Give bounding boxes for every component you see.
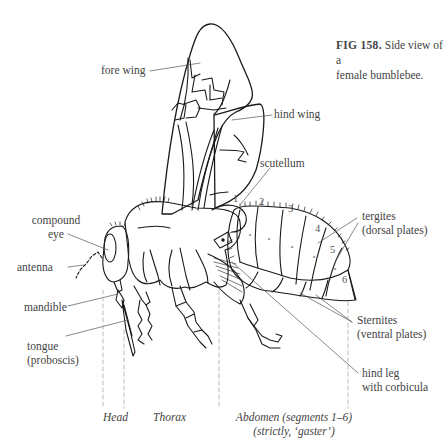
svg-text:a: a xyxy=(268,236,271,241)
label-fore-wing: fore wing xyxy=(101,63,145,77)
segment-number-2: 2 xyxy=(259,196,264,207)
svg-text:a: a xyxy=(334,266,337,271)
segment-number-4: 4 xyxy=(315,223,320,234)
segment-number-1: 1 xyxy=(233,193,238,204)
label-sternites: Sternites (ventral plates) xyxy=(357,313,426,341)
figure-caption: FIG 158. Side view of a female bumblebee… xyxy=(336,38,445,83)
region-label-thorax: Thorax xyxy=(153,410,186,424)
label-hind-leg-line1: hind leg xyxy=(362,366,428,380)
sternites-leader-2 xyxy=(316,295,352,322)
label-scutellum: scutellum xyxy=(260,156,305,170)
bee-anatomy-figure: a a a a a xyxy=(0,0,445,445)
label-mandible: mandible xyxy=(24,300,67,314)
caption-text-2: female bumblebee. xyxy=(336,68,445,83)
label-antenna: antenna xyxy=(17,260,53,274)
mandible-leader xyxy=(68,294,118,306)
head-shape xyxy=(103,226,129,292)
tongue-leader xyxy=(66,320,128,336)
label-compound-eye: compound eye xyxy=(30,213,82,241)
region-label-head: Head xyxy=(103,410,128,424)
label-tongue: tongue (proboscis) xyxy=(27,339,79,367)
middle-leg-shape xyxy=(172,286,212,348)
svg-text:a: a xyxy=(291,244,294,249)
label-tongue-line2: (proboscis) xyxy=(27,353,79,367)
front-leg-shape xyxy=(134,286,152,344)
region-label-abdomen-line2: (strictly, ‘gaster’) xyxy=(224,424,364,438)
fore-wing-leader xyxy=(150,63,200,71)
label-tergites-line1: tergites xyxy=(362,209,427,223)
region-label-abdomen: Abdomen (segments 1–6) (strictly, ‘gaste… xyxy=(224,410,364,438)
svg-text:a: a xyxy=(313,254,316,259)
label-hind-wing: hind wing xyxy=(274,107,320,121)
antenna-leader xyxy=(68,265,84,267)
label-hind-leg-line2: with corbicula xyxy=(362,380,428,394)
label-compound-eye-line2: eye xyxy=(30,227,82,241)
segment-number-6: 6 xyxy=(342,274,347,285)
label-sternites-line2: (ventral plates) xyxy=(357,327,426,341)
antenna-shape xyxy=(76,252,102,278)
tergites-leader-1 xyxy=(318,218,357,243)
hind-wing-shape xyxy=(192,104,264,210)
compound-eye-shape xyxy=(104,234,116,262)
segment-number-3: 3 xyxy=(288,203,293,214)
region-label-abdomen-line1: Abdomen (segments 1–6) xyxy=(224,410,364,424)
label-tergites-line2: (dorsal plates) xyxy=(362,223,427,237)
svg-text:a: a xyxy=(249,232,252,237)
segment-number-5: 5 xyxy=(330,244,335,255)
sternites-leader-1 xyxy=(300,293,352,322)
label-tongue-line1: tongue xyxy=(27,339,79,353)
mouthparts-shape xyxy=(116,290,135,356)
label-tergites: tergites (dorsal plates) xyxy=(362,209,427,237)
label-sternites-line1: Sternites xyxy=(357,313,426,327)
label-compound-eye-line1: compound xyxy=(30,213,82,227)
label-hind-leg: hind leg with corbicula xyxy=(362,366,428,394)
figure-number: FIG 158. xyxy=(336,39,382,51)
tergites-leader-2 xyxy=(335,223,358,262)
region-dividers xyxy=(103,290,348,408)
abdomen-shape: a a a a a xyxy=(228,206,356,301)
hind-wing-leader xyxy=(232,115,272,120)
